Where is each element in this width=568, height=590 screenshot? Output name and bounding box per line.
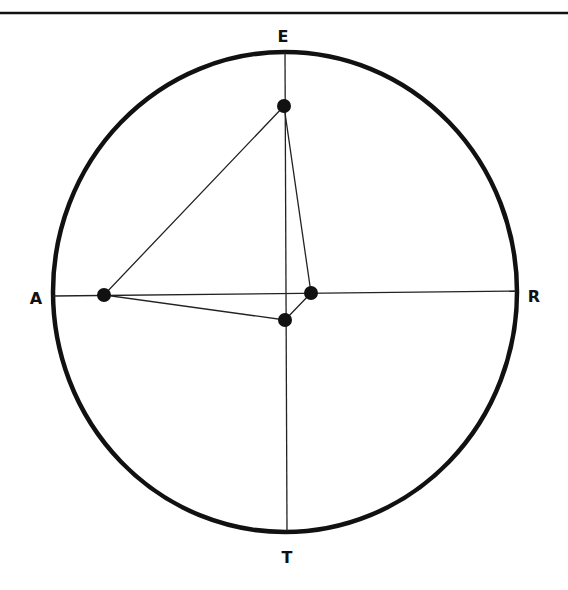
label-a-left: A <box>30 289 43 308</box>
point-bottom-dot <box>278 313 292 327</box>
compass-diagram: E A R T <box>0 0 568 590</box>
point-right-dot <box>304 286 318 300</box>
label-t-bottom: T <box>282 548 293 567</box>
point-top-dot <box>277 99 291 113</box>
label-e-top: E <box>278 27 289 46</box>
connecting-polygon <box>104 106 311 320</box>
horizontal-axis-line <box>53 291 516 296</box>
label-r-right: R <box>528 287 540 306</box>
point-left-dot <box>97 288 111 302</box>
